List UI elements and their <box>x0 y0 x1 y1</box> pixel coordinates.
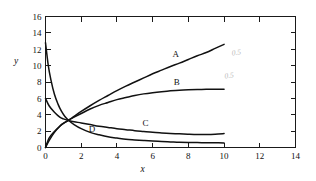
y-tick-label-2: 2 <box>37 126 42 136</box>
tick-marks-group <box>46 17 296 148</box>
y-tick-label-4: 4 <box>37 110 42 120</box>
x-tick-label-12: 12 <box>255 151 264 161</box>
tick-labels-group: 024681012140246810121416 <box>33 12 301 161</box>
curve-B <box>46 89 225 147</box>
y-tick-label-10: 10 <box>33 61 43 71</box>
y-tick-label-12: 12 <box>33 45 42 55</box>
x-tick-label-8: 8 <box>186 151 191 161</box>
figure-container: 024681012140246810121416 ABCD 0.50.5 x y <box>0 0 316 181</box>
x-tick-label-2: 2 <box>79 151 84 161</box>
x-axis-title: x <box>139 164 145 174</box>
annotation-0: 0.5 <box>231 48 242 58</box>
x-tick-label-4: 4 <box>115 151 120 161</box>
curve-label-A: A <box>173 49 180 59</box>
pencil-annotations-group: 0.50.5 <box>224 48 242 81</box>
x-tick-label-0: 0 <box>43 151 48 161</box>
x-tick-label-6: 6 <box>150 151 155 161</box>
curve-D <box>46 43 225 143</box>
plot-frame <box>46 17 296 148</box>
curve-label-B: B <box>174 77 180 87</box>
curve-C <box>46 98 225 134</box>
curve-label-D: D <box>89 124 96 134</box>
y-axis-title: y <box>13 56 19 66</box>
data-curves-group <box>46 43 225 148</box>
curve-label-C: C <box>142 118 148 128</box>
annotation-1: 0.5 <box>224 70 235 80</box>
y-tick-label-8: 8 <box>37 77 42 87</box>
line-chart: 024681012140246810121416 ABCD 0.50.5 x y <box>0 0 316 181</box>
x-tick-label-10: 10 <box>220 151 230 161</box>
x-tick-label-14: 14 <box>291 151 301 161</box>
y-tick-label-16: 16 <box>33 12 43 22</box>
y-tick-label-0: 0 <box>37 143 42 153</box>
y-tick-label-6: 6 <box>37 94 42 104</box>
y-tick-label-14: 14 <box>33 28 43 38</box>
